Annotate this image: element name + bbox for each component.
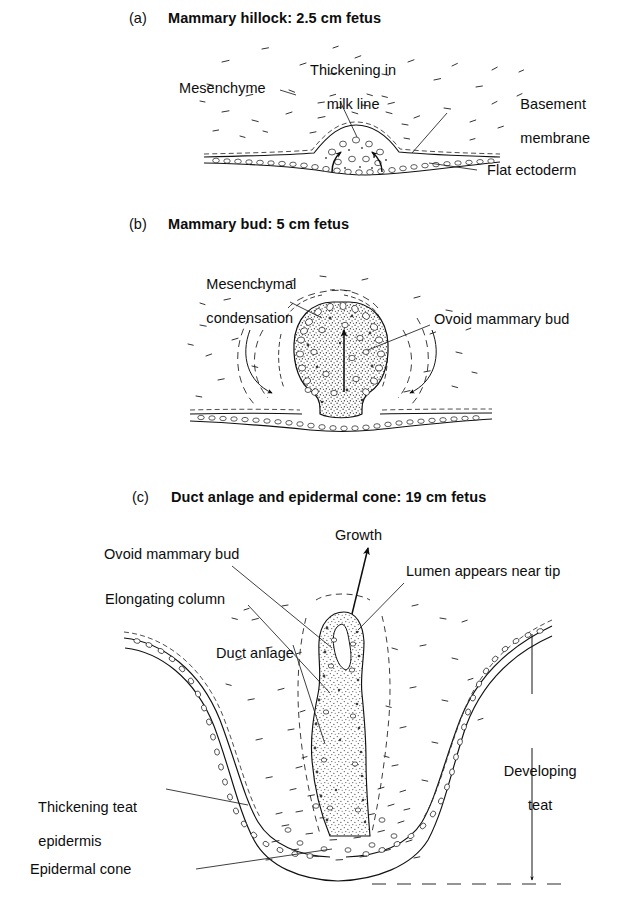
- leader-epidermal-cone-c: [196, 849, 332, 869]
- label-thickening-milk-line-a-line1: Thickening in: [310, 62, 396, 78]
- panel-c-tag: (c): [132, 489, 149, 505]
- label-epidermal-cone-c: Epidermal cone: [30, 861, 131, 878]
- panel-b-tag: (b): [129, 216, 147, 232]
- label-elongating-column-c: Elongating column: [105, 591, 225, 608]
- label-thickening-milk-line-a: Thickening in milk line: [275, 45, 415, 130]
- label-mesenchyme-a: Mesenchyme: [179, 80, 266, 97]
- hillock-thickened-cells-a: [328, 137, 383, 166]
- leader-basement-membrane-a: [412, 113, 447, 153]
- condensation-arrow-right-b: [410, 330, 436, 393]
- leader-ovoid-bud-c: [232, 566, 332, 648]
- growth-arrow-c: [352, 548, 368, 614]
- panel-b-title: Mammary bud: 5 cm fetus: [168, 216, 349, 232]
- label-basement-membrane-a: Basement membrane: [504, 79, 590, 164]
- label-thickening-teat-epidermis-c: Thickening teat epidermis: [22, 782, 137, 867]
- label-duct-anlage-c: Duct anlage: [216, 645, 294, 662]
- label-thickening-teat-epidermis-c-line2: epidermis: [38, 833, 101, 849]
- label-ovoid-mammary-bud-b: Ovoid mammary bud: [434, 311, 569, 328]
- label-mesenchymal-condensation-b: Mesenchymal condensation: [190, 259, 296, 344]
- panel-a-title: Mammary hillock: 2.5 cm fetus: [168, 10, 381, 26]
- label-growth-c: Growth: [335, 527, 382, 544]
- label-thickening-milk-line-a-line2: milk line: [327, 96, 380, 112]
- label-thickening-teat-epidermis-c-line1: Thickening teat: [38, 799, 137, 815]
- label-lumen-appears-near-tip-c: Lumen appears near tip: [406, 563, 560, 580]
- ectoderm-upper-outline-b2: [380, 413, 492, 414]
- label-basement-membrane-a-line1: Basement: [520, 96, 586, 112]
- label-developing-teat-c-line2: teat: [528, 797, 552, 813]
- label-basement-membrane-a-line2: membrane: [520, 130, 590, 146]
- figure-root: (a) Mammary hillock: 2.5 cm fetus Mesenc…: [0, 0, 631, 918]
- ectoderm-upper-outline-b: [190, 413, 302, 414]
- label-mesenchymal-condensation-b-line2: condensation: [206, 310, 293, 326]
- label-flat-ectoderm-a: Flat ectoderm: [487, 162, 576, 179]
- label-mesenchymal-condensation-b-line1: Mesenchymal: [206, 276, 296, 292]
- label-developing-teat-c: Developing teat: [478, 746, 586, 831]
- label-developing-teat-c-line1: Developing: [504, 763, 577, 779]
- leader-lumen-c: [358, 583, 404, 630]
- panel-c-title: Duct anlage and epidermal cone: 19 cm fe…: [171, 489, 486, 505]
- label-ovoid-mammary-bud-c: Ovoid mammary bud: [104, 546, 239, 563]
- panel-a-tag: (a): [129, 10, 147, 26]
